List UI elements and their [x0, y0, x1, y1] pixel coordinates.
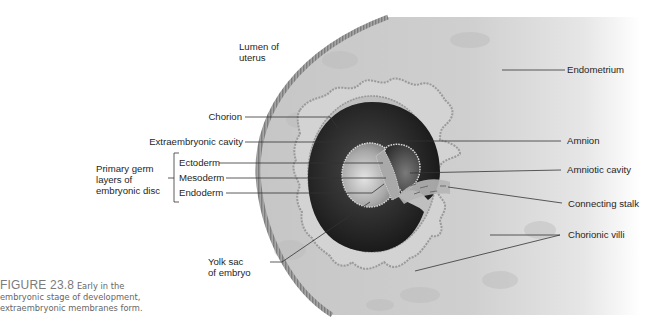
lumen-line2: uterus [239, 52, 279, 63]
caption-line2: embryonic stage of development, [0, 292, 140, 302]
yolk-line2: of embryo [208, 267, 251, 278]
lumen-line1: Lumen of [239, 41, 279, 52]
label-ectoderm: Ectoderm [179, 157, 220, 168]
label-chorion: Chorion [190, 111, 242, 122]
caption-line3: extraembryonic membranes form. [0, 303, 143, 313]
label-yolk-sac: Yolk sac of embryo [208, 256, 251, 278]
label-chorionic-villi: Chorionic villi [568, 229, 625, 240]
label-endometrium: Endometrium [567, 64, 624, 75]
figure-caption: FIGURE 23.8 Early in the embryonic stage… [0, 280, 200, 314]
label-extraembryonic-cavity: Extraembryonic cavity [130, 136, 243, 147]
label-lumen-of-uterus: Lumen of uterus [239, 41, 279, 63]
label-amnion: Amnion [567, 135, 600, 146]
caption-line1: Early in the [77, 281, 124, 291]
label-primary-germ-layers: Primary germ layers of embryonic disc [96, 163, 160, 196]
germ-line1: Primary germ [96, 163, 160, 174]
germ-line2: layers of [96, 174, 160, 185]
label-mesoderm: Mesoderm [179, 172, 224, 183]
label-endoderm: Endoderm [179, 187, 223, 198]
label-connecting-stalk: Connecting stalk [568, 198, 639, 209]
yolk-line1: Yolk sac [208, 256, 251, 267]
figure-number: FIGURE 23.8 [0, 278, 74, 292]
germ-line3: embryonic disc [96, 185, 160, 196]
label-amniotic-cavity: Amniotic cavity [567, 164, 631, 175]
